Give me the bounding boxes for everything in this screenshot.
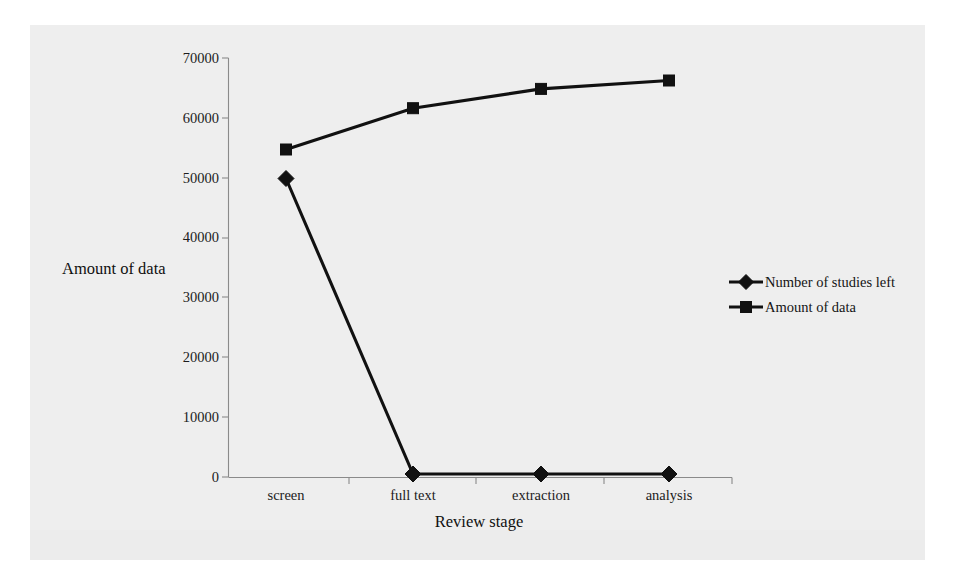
x-axis — [229, 478, 733, 485]
chart-legend: Number of studies left Amount of data — [729, 274, 895, 315]
y-axis — [222, 58, 229, 477]
x-tick-label: screen — [267, 487, 305, 503]
diamond-marker-icon — [405, 466, 421, 482]
x-tick-label: extraction — [512, 487, 571, 503]
legend-label: Amount of data — [765, 299, 857, 315]
diamond-marker-icon — [533, 466, 549, 482]
y-axis-title: Amount of data — [62, 259, 166, 278]
square-marker-icon — [741, 302, 752, 313]
y-tick-label: 0 — [212, 469, 219, 485]
series-amount-of-data — [281, 75, 675, 155]
y-tick-label: 50000 — [183, 170, 219, 186]
x-axis-title: Review stage — [435, 512, 523, 531]
legend-label: Number of studies left — [765, 274, 895, 290]
y-tick-label: 20000 — [183, 349, 219, 365]
chart-screenshot: 70000 60000 50000 40000 30000 20000 1000… — [0, 0, 962, 581]
diamond-marker-icon — [278, 171, 294, 187]
series-number-of-studies-left — [278, 171, 677, 483]
square-marker-icon — [536, 83, 547, 94]
y-axis-tick-labels: 70000 60000 50000 40000 30000 20000 1000… — [183, 50, 219, 485]
chart-svg: 70000 60000 50000 40000 30000 20000 1000… — [0, 0, 962, 581]
x-tick-label: analysis — [646, 487, 693, 503]
square-marker-icon — [664, 75, 675, 86]
y-tick-label: 70000 — [183, 50, 219, 66]
y-tick-label: 60000 — [183, 110, 219, 126]
diamond-marker-icon — [661, 466, 677, 482]
legend-item-amount-of-data: Amount of data — [729, 299, 857, 315]
y-tick-label: 40000 — [183, 229, 219, 245]
y-tick-label: 10000 — [183, 409, 219, 425]
x-tick-label: full text — [390, 487, 436, 503]
diamond-marker-icon — [739, 275, 754, 290]
x-axis-tick-labels: screen full text extraction analysis — [267, 487, 692, 503]
legend-item-number-of-studies-left: Number of studies left — [729, 274, 895, 290]
square-marker-icon — [281, 144, 292, 155]
square-marker-icon — [408, 103, 419, 114]
line-chart: 70000 60000 50000 40000 30000 20000 1000… — [0, 0, 962, 581]
y-tick-label: 30000 — [183, 289, 219, 305]
